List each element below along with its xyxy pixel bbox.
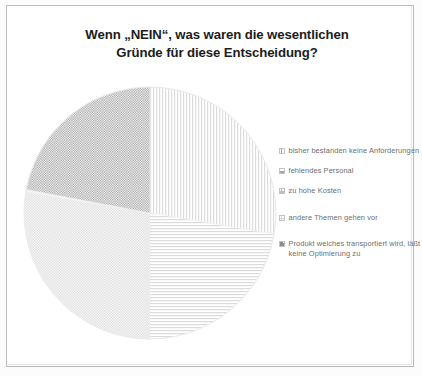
chart-title-line-1: Wenn „NEIN“, was waren die wesentlichen: [13, 26, 421, 44]
pie-slice-zu-hohe-kosten: [24, 192, 150, 339]
legend-item-label: bisher bestanden keine Anforderungen: [289, 146, 420, 156]
legend-item-produkt-welches-transportiert-wird[interactable]: Produkt welches transportiert wird, läßt…: [279, 239, 422, 258]
legend-item-label: andere Themen gehen vor: [289, 213, 378, 223]
document-page: Wenn „NEIN“, was waren die wesentlichen …: [0, 0, 422, 376]
document-frame: Wenn „NEIN“, was waren die wesentlichen …: [6, 5, 414, 367]
pie-slice-bisher-bestanden-keine-anforderungen: [150, 87, 276, 234]
chart-title: Wenn „NEIN“, was waren die wesentlichen …: [13, 26, 421, 62]
legend-item-fehlendes-personal[interactable]: fehlendes Personal: [279, 166, 422, 176]
swatch-very-light-check-icon: [279, 215, 285, 221]
pie-chart-svg: [21, 84, 281, 344]
legend-item-bisher-bestanden-keine-anforderungen[interactable]: bisher bestanden keine Anforderungen: [279, 146, 422, 156]
legend-item-label: Produkt welches transportiert wird, läßt…: [289, 239, 422, 258]
swatch-vertical-lines-icon: [279, 148, 285, 154]
legend-item-label: zu hohe Kosten: [289, 186, 342, 196]
swatch-fine-check-light-icon: [279, 188, 285, 194]
legend-label-line-1: Produkt welches transportiert: [289, 239, 388, 248]
legend-label-line-1: bisher bestanden keine: [289, 146, 368, 155]
legend-label-line-2: Anforderungen: [369, 146, 419, 155]
chart-title-line-2: Gründe für diese Entscheidung?: [13, 44, 421, 62]
chart-legend: bisher bestanden keine Anforderungen feh…: [279, 146, 422, 269]
swatch-horizontal-lines-icon: [279, 168, 285, 174]
legend-item-andere-themen-gehen-vor[interactable]: andere Themen gehen vor: [279, 213, 422, 223]
pie-slice-fehlendes-personal: [150, 213, 274, 339]
legend-item-zu-hohe-kosten[interactable]: zu hohe Kosten: [279, 186, 422, 196]
swatch-dark-check-icon: [279, 241, 285, 247]
legend-item-label: fehlendes Personal: [289, 166, 354, 176]
pie-chart: [21, 84, 281, 344]
